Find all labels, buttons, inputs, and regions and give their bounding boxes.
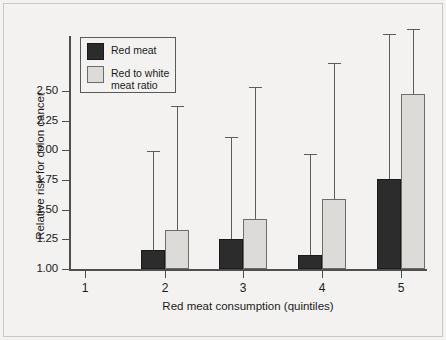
x-axis-title: Red meat consumption (quintiles) <box>69 300 427 312</box>
x-tick-label: 3 <box>228 281 258 295</box>
y-tick-mark <box>62 121 70 122</box>
bar-ratio-q3 <box>243 219 267 269</box>
x-tick-mark <box>85 271 86 278</box>
legend-entry-ratio: Red to white meat ratio <box>87 66 169 91</box>
error-bar-line <box>177 106 178 230</box>
error-bar-line <box>413 29 414 94</box>
error-bar-cap <box>383 34 396 35</box>
y-tick-mark <box>62 150 70 151</box>
error-bar-cap <box>328 63 341 64</box>
bar-red-meat-q4 <box>298 255 322 269</box>
y-tick-mark <box>62 91 70 92</box>
error-bar-cap <box>225 137 238 138</box>
error-bar-line <box>310 154 311 255</box>
light-swatch-icon <box>87 66 104 83</box>
plot-area: 1.001.251.501.752.002.252.50 12345 Red m… <box>0 0 446 340</box>
bar-red-meat-q3 <box>219 239 243 269</box>
x-tick-mark <box>322 271 323 278</box>
x-tick-mark <box>165 271 166 278</box>
y-axis-title: Relative risk for colon cancer <box>34 56 46 276</box>
dark-swatch-icon <box>87 43 104 60</box>
error-bar-line <box>231 137 232 239</box>
y-axis-line <box>69 36 71 271</box>
y-tick-mark <box>62 269 70 270</box>
x-tick-label: 5 <box>386 281 416 295</box>
error-bar-cap <box>147 151 160 152</box>
error-bar-line <box>389 34 390 179</box>
bar-ratio-q5 <box>401 94 425 269</box>
legend-label-ratio: Red to white meat ratio <box>111 66 169 91</box>
x-tick-label: 1 <box>70 281 100 295</box>
x-tick-label: 2 <box>150 281 180 295</box>
bar-red-meat-q5 <box>377 179 401 269</box>
error-bar-cap <box>171 106 184 107</box>
x-tick-label: 4 <box>307 281 337 295</box>
bar-ratio-q4 <box>322 199 346 269</box>
error-bar-line <box>153 151 154 250</box>
y-tick-mark <box>62 210 70 211</box>
bar-red-meat-q2 <box>141 250 165 269</box>
x-axis-line <box>69 269 427 271</box>
error-bar-cap <box>407 29 420 30</box>
legend-entry-red-meat: Red meat <box>87 43 157 60</box>
x-tick-mark <box>243 271 244 278</box>
y-tick-mark <box>62 180 70 181</box>
chart-legend: Red meat Red to white meat ratio <box>80 37 176 93</box>
y-tick-mark <box>62 239 70 240</box>
chart-figure: 1.001.251.501.752.002.252.50 12345 Red m… <box>0 0 446 340</box>
error-bar-cap <box>249 87 262 88</box>
error-bar-cap <box>304 154 317 155</box>
error-bar-line <box>255 87 256 219</box>
legend-label-red-meat: Red meat <box>111 43 157 57</box>
x-tick-mark <box>401 271 402 278</box>
error-bar-line <box>334 63 335 198</box>
bar-ratio-q2 <box>165 230 189 269</box>
